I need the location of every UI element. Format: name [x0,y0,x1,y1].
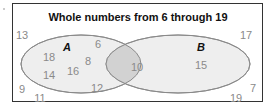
number-12: 12 [91,82,103,94]
number-14: 14 [43,69,55,81]
number-7: 7 [250,82,256,94]
number-6: 6 [95,38,101,50]
set-b-label: B [197,41,205,53]
diagram-title: Whole numbers from 6 through 19 [48,11,227,23]
number-11: 11 [34,92,45,104]
number-19: 19 [230,92,242,104]
venn-diagram: Whole numbers from 6 through 19 A B 13 1… [0,0,269,110]
number-8: 8 [85,55,91,67]
number-13: 13 [16,29,28,41]
number-18: 18 [43,51,55,63]
number-17: 17 [240,29,252,41]
number-16: 16 [67,65,79,77]
number-15: 15 [195,59,207,71]
number-10: 10 [131,61,143,73]
set-a-label: A [62,41,71,53]
number-9: 9 [19,83,25,95]
